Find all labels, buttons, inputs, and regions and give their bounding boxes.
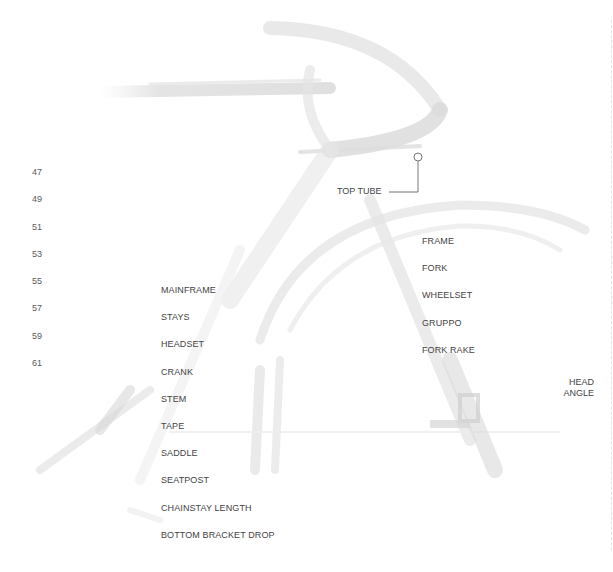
head-angle-callout-label[interactable]: HEAD ANGLE xyxy=(548,377,594,399)
geometry-bottom-bracket-drop[interactable]: BOTTOM BRACKET DROP xyxy=(161,529,275,556)
component-tape[interactable]: TAPE xyxy=(161,420,275,447)
size-option[interactable]: 47 xyxy=(32,166,42,193)
component-saddle[interactable]: SADDLE xyxy=(161,447,275,474)
top-tube-callout-label[interactable]: TOP TUBE xyxy=(337,186,382,197)
size-option[interactable]: 53 xyxy=(32,248,42,275)
bicycle-frame-illustration xyxy=(0,0,613,572)
size-option[interactable]: 57 xyxy=(32,302,42,329)
geometry-chainstay-length[interactable]: CHAINSTAY LENGTH xyxy=(161,502,275,529)
component-gruppo[interactable]: GRUPPO xyxy=(422,317,475,344)
component-stays[interactable]: STAYS xyxy=(161,311,275,338)
component-mainframe[interactable]: MAINFRAME xyxy=(161,284,275,311)
size-option[interactable]: 55 xyxy=(32,275,42,302)
component-fork[interactable]: FORK xyxy=(422,262,475,289)
head-angle-line2: ANGLE xyxy=(548,388,594,399)
right-edge-divider xyxy=(611,20,612,550)
component-frame[interactable]: FRAME xyxy=(422,235,475,262)
size-option[interactable]: 59 xyxy=(32,330,42,357)
head-angle-line1: HEAD xyxy=(548,377,594,388)
top-tube-leader-line xyxy=(389,153,422,192)
component-list-left: MAINFRAME STAYS HEADSET CRANK STEM TAPE … xyxy=(161,284,275,556)
component-stem[interactable]: STEM xyxy=(161,393,275,420)
geometry-fork-rake[interactable]: FORK RAKE xyxy=(422,344,475,371)
component-crank[interactable]: CRANK xyxy=(161,366,275,393)
frame-size-list: 47 49 51 53 55 57 59 61 xyxy=(32,166,42,384)
component-list-right: FRAME FORK WHEELSET GRUPPO FORK RAKE xyxy=(422,235,475,371)
component-headset[interactable]: HEADSET xyxy=(161,338,275,365)
size-option[interactable]: 49 xyxy=(32,193,42,220)
size-option[interactable]: 61 xyxy=(32,357,42,384)
component-wheelset[interactable]: WHEELSET xyxy=(422,289,475,316)
component-seatpost[interactable]: SEATPOST xyxy=(161,474,275,501)
size-option[interactable]: 51 xyxy=(32,221,42,248)
